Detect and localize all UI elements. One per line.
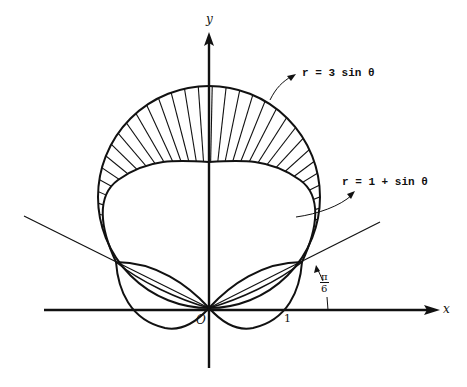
angle-tick — [327, 297, 328, 310]
leader-outer-label — [270, 76, 292, 100]
angle-label: π 6 — [320, 271, 329, 294]
polar-figure — [0, 0, 467, 387]
ray-5pi-over-6 — [24, 216, 209, 308]
leader-outer-arrow-icon — [287, 74, 296, 81]
outer-curve-label: r = 3 sin θ — [302, 67, 375, 79]
x-tick-label: 1 — [284, 312, 291, 325]
leader-inner-label — [296, 195, 352, 217]
x-axis-label: x — [443, 302, 450, 316]
origin-label: O — [196, 313, 206, 327]
angle-denominator: 6 — [320, 283, 329, 294]
angle-numerator: π — [320, 271, 329, 283]
y-axis-label: y — [206, 12, 213, 26]
inner-curve-label: r = 1 + sin θ — [342, 176, 428, 188]
hatching — [0, 0, 464, 240]
